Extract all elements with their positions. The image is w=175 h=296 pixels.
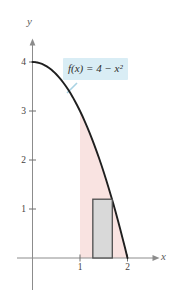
y-axis-label: y (27, 16, 32, 27)
y-axis-arrow-icon (30, 39, 36, 46)
y-tick-label: 1 (13, 205, 26, 215)
x-axis-label: x (161, 251, 166, 262)
figure-canvas: y x f(x) = 4 − x² 123412 (0, 0, 175, 296)
y-tick-label: 3 (13, 107, 26, 117)
function-label: f(x) = 4 − x² (63, 58, 128, 80)
x-tick-label: 1 (74, 263, 86, 273)
y-tick-label: 2 (13, 156, 26, 166)
y-tick-label: 4 (13, 58, 26, 68)
graph-svg (0, 0, 175, 296)
riemann-rectangle (93, 199, 112, 258)
x-tick-label: 2 (122, 263, 134, 273)
x-axis-arrow-icon (153, 255, 160, 261)
